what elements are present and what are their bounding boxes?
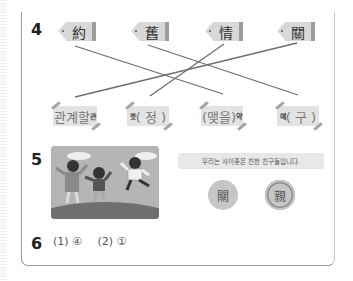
answer-2: (2) ① <box>97 235 126 248</box>
label-sound: ( 구 ) <box>286 107 316 126</box>
label-sound: 관 <box>90 111 96 121</box>
label-meaning: 관계할 <box>54 107 90 126</box>
connection-line <box>75 46 223 94</box>
meaning-label-4[interactable]: 예 ( 구 ) <box>277 106 319 126</box>
question-6-answers: (1) ④ (2) ① <box>53 235 138 248</box>
meaning-label-2[interactable]: 뜻 ( 정 ) <box>127 106 169 126</box>
option-circle-2-selected[interactable]: 親 <box>265 180 295 210</box>
connection-line <box>148 45 298 95</box>
children-illustration-icon <box>51 146 159 219</box>
option-circle-1[interactable]: 關 <box>208 180 238 210</box>
option-hanja: 親 <box>274 187 286 204</box>
meaning-label-3[interactable]: (맺을) 약 <box>201 106 243 126</box>
label-sound: ( 정 ) <box>136 107 166 126</box>
children-jumping-picture <box>51 146 159 219</box>
question-6-number: 6 <box>31 234 42 253</box>
label-meaning: (맺을) <box>202 107 236 126</box>
meaning-label-1[interactable]: 관계할 관 <box>53 106 97 126</box>
option-hanja: 關 <box>217 187 229 204</box>
connection-line <box>75 43 297 97</box>
label-sound: 약 <box>236 111 242 121</box>
question-5-number: 5 <box>31 150 42 169</box>
example-sentence: 우리는 사이좋은 친한 친구들입니다. <box>178 153 324 169</box>
answer-1: (1) ④ <box>53 235 82 248</box>
